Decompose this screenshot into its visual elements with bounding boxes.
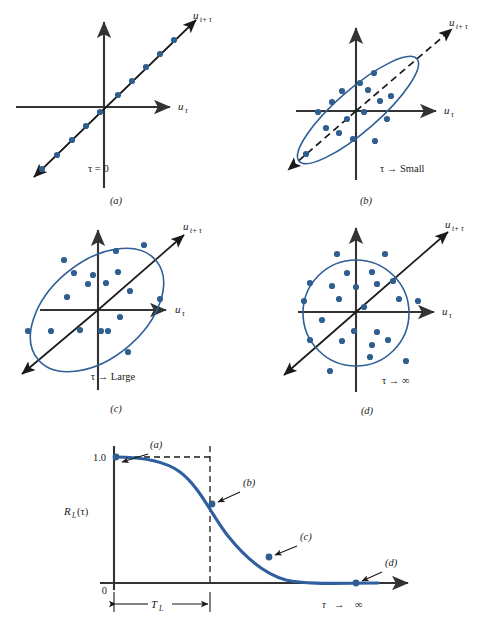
chart-leader-b [218,492,240,502]
svg-text:u: u [178,100,184,112]
chart-leader-d [362,572,382,581]
chart-marker-a [113,454,120,461]
svg-text:τ: τ [182,309,185,318]
chart-marker-b [209,501,216,508]
panel-c-x-axis-label: u τ [175,303,185,318]
panel-b-condition: τ → Small [380,163,425,174]
svg-text:L: L [71,511,76,520]
chart-markers [113,454,360,587]
svg-text:t+ τ: t+ τ [190,226,202,235]
panel-c-tag: (c) [110,403,122,415]
svg-text:→: → [334,599,345,610]
panel-d-x-axis-label: u τ [442,305,452,320]
chart-leader-c [275,546,297,555]
svg-text:τ: τ [449,311,452,320]
chart-annotation-a: (a) [150,439,163,451]
svg-text:(τ): (τ) [77,506,89,518]
panel-d-scatter: u t+ τ u τ τ → ∞ (d) [246,212,493,424]
figure-root: u t+ τ u τ τ = 0 (a) [0,0,493,625]
panel-b-scatter: u t+ τ u τ τ → Small (b) [246,0,493,212]
panel-a-scatter: u t+ τ u τ τ = 0 (a) [0,0,246,212]
panel-d-y-axis-label: u t+ τ [445,218,464,233]
panel-c-data-points [25,242,163,355]
svg-text:u: u [444,104,450,116]
panel-b-y-axis-label: u t+ τ [449,16,468,31]
chart-marker-c [266,554,273,561]
svg-text:t+ τ: t+ τ [200,15,212,24]
chart-annotation-d: (d) [385,557,398,569]
chart-integral-scale-dimension: T L [114,592,210,613]
svg-text:L: L [158,604,163,613]
panel-c-diagonal-upper [98,235,184,310]
panel-b-x-axis-label: u τ [444,104,454,119]
chart-annotation-c: (c) [300,531,312,543]
panel-a-tag: (a) [110,195,123,207]
svg-text:u: u [183,220,189,232]
svg-text:τ: τ [322,599,327,610]
chart-x-axis-label: τ → ∞ [322,599,363,610]
svg-text:u: u [449,16,455,28]
svg-text:R: R [63,505,71,517]
chart-annotation-b: (b) [243,477,256,489]
autocorrelation-curve-chart: (a) (b) (c) (d) 1.0 0 R L (τ) T L τ → ∞ [60,424,440,624]
svg-text:u: u [442,305,448,317]
chart-marker-d [353,580,360,587]
panel-a-x-axis-label: u τ [178,100,188,115]
panel-a-condition: τ = 0 [88,163,109,174]
panel-c-condition: τ → Large [91,371,136,382]
svg-text:u: u [175,303,181,315]
panel-c-y-axis-label: u t+ τ [183,220,202,235]
panel-a-y-axis-label: u t+ τ [193,9,212,24]
svg-text:τ: τ [451,110,454,119]
chart-curve [115,457,378,583]
svg-text:u: u [193,9,199,21]
svg-text:u: u [445,218,451,230]
panel-c-scatter: u t+ τ u τ τ → Large (c) [0,212,246,424]
panel-d-tag: (d) [361,405,374,417]
chart-y-tick-1p0: 1.0 [93,452,106,463]
panel-b-diagonal-upper [356,29,452,111]
panel-b-tag: (b) [360,195,373,207]
svg-text:T: T [151,598,158,610]
chart-y-tick-0: 0 [102,585,107,596]
svg-text:t+ τ: t+ τ [456,22,468,31]
svg-text:t+ τ: t+ τ [452,224,464,233]
svg-text:∞: ∞ [355,599,363,610]
panel-d-condition: τ → ∞ [382,375,409,386]
chart-y-axis-label: R L (τ) [63,505,89,520]
svg-text:τ: τ [185,106,188,115]
